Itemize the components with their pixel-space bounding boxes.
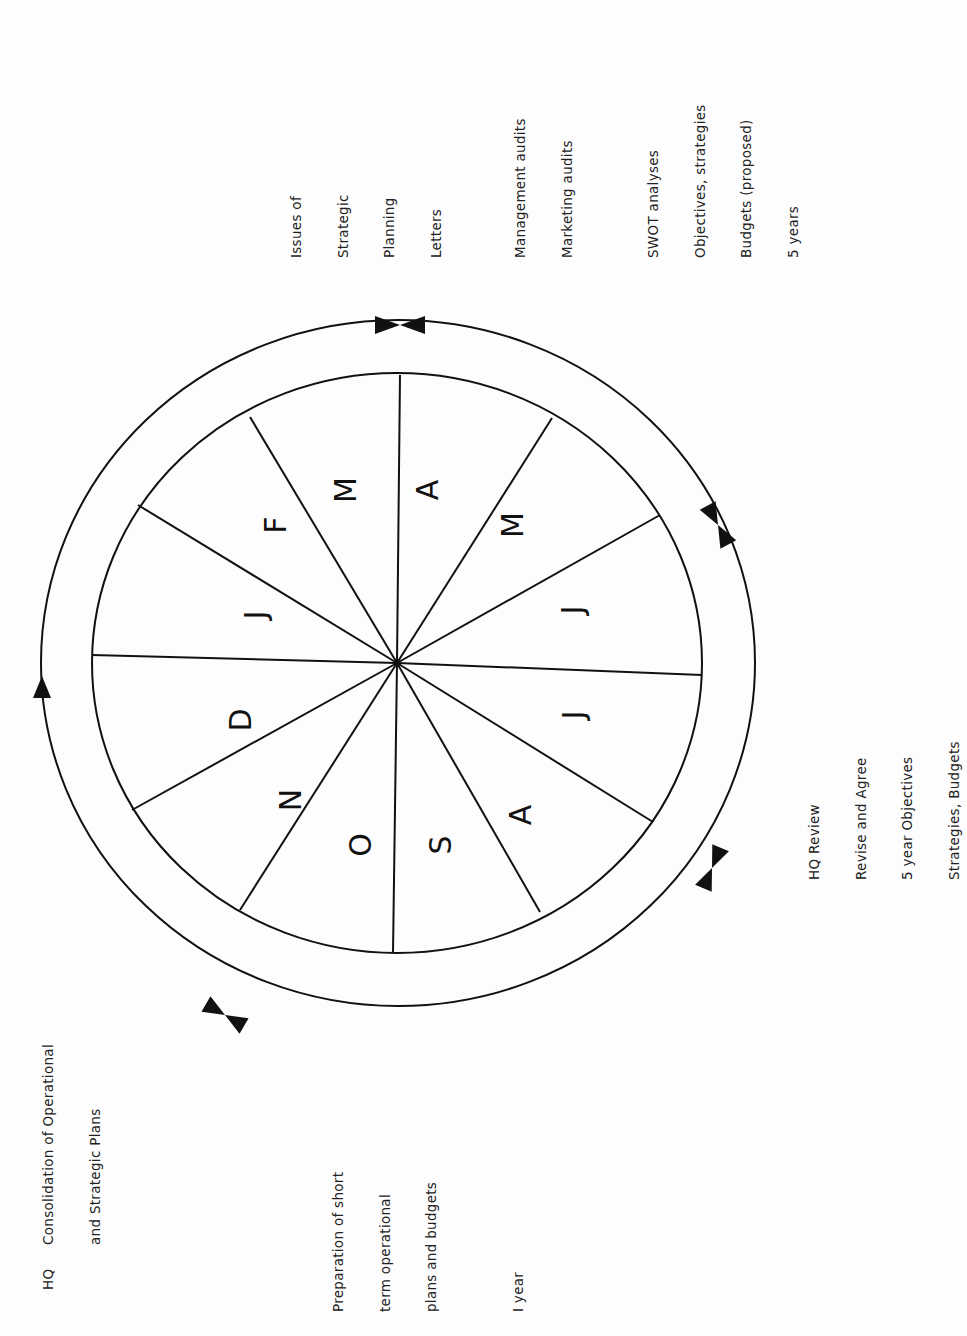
month-label-8: S	[423, 835, 458, 854]
label-preparation-operational-plans: Preparation of short term operational pl…	[300, 1172, 542, 1312]
label-issues-of-strategic-planning-letters: Issues of Strategic Planning Letters	[258, 194, 460, 258]
month-label-9: O	[343, 833, 378, 857]
month-label-2: M	[328, 477, 363, 503]
arrow-up-icon	[33, 676, 51, 698]
label-audits-swot: Management audits Marketing audits SWOT …	[482, 104, 817, 258]
month-dividers	[92, 375, 702, 953]
month-label-0: J	[238, 611, 273, 622]
month-label-7: A	[503, 804, 538, 825]
month-labels: JFMAMJJASOND	[223, 477, 591, 857]
month-label-10: N	[273, 789, 308, 811]
month-label-6: J	[556, 711, 591, 722]
bowtie-arrow-icon	[700, 501, 737, 548]
month-label-1: F	[258, 516, 293, 533]
month-label-5: J	[555, 606, 590, 617]
bowtie-arrow-icon	[375, 316, 425, 334]
month-label-4: M	[495, 512, 530, 538]
cycle-arrows	[33, 316, 736, 1034]
label-hq-review: HQ Review Revise and Agree 5 year Object…	[776, 741, 967, 880]
month-label-3: A	[410, 479, 445, 500]
label-hq-prefix: HQ	[10, 1269, 72, 1290]
label-consolidation-plans: Consolidation of Operational and Strateg…	[10, 1044, 119, 1245]
bowtie-arrow-icon	[695, 844, 729, 892]
bowtie-arrow-icon	[201, 996, 248, 1034]
month-label-11: D	[223, 708, 258, 731]
